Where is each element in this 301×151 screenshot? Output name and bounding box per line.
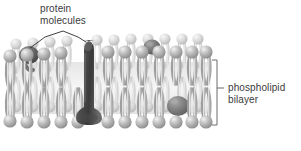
embedded-protein-right <box>167 96 189 116</box>
bilayer-label-line1: phospholipid <box>228 82 285 93</box>
phospholipid-bilayer <box>3 33 212 128</box>
bilayer-label-line2: bilayer <box>228 94 258 105</box>
bilayer-bracket <box>212 60 224 125</box>
phospholipid-bilayer-label: phospholipidbilayer <box>228 82 285 105</box>
protein-leader-lines <box>30 31 86 48</box>
protein-molecules-label: proteinmolecules <box>40 3 86 26</box>
protein-label-line2: molecules <box>40 15 86 26</box>
protein-label-line1: protein <box>40 3 71 14</box>
head-group-front-lower <box>3 114 212 128</box>
